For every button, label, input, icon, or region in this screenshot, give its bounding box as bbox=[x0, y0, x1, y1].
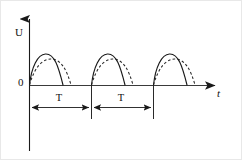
waveform-figure: U 0 t T T bbox=[0, 0, 242, 160]
solid-waveform bbox=[30, 54, 188, 85]
period-label-1: T bbox=[46, 93, 72, 104]
x-axis-label: t bbox=[217, 88, 220, 99]
origin-label: 0 bbox=[18, 77, 24, 88]
solid-hump-1 bbox=[30, 54, 64, 85]
dashed-waveform bbox=[30, 59, 196, 85]
solid-hump-3 bbox=[154, 54, 188, 85]
waveform-plot bbox=[1, 1, 242, 160]
solid-hump-2 bbox=[92, 54, 126, 85]
y-axis-label: U bbox=[15, 27, 23, 38]
period-label-2: T bbox=[108, 93, 134, 104]
